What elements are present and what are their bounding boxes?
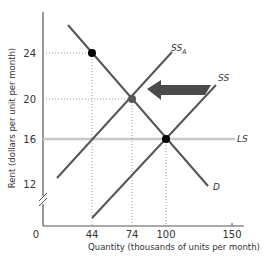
d-label: D bbox=[213, 182, 220, 192]
x-tick-0: 0 bbox=[33, 229, 39, 240]
x-tick-150: 150 bbox=[222, 229, 241, 240]
y-tick-16: 16 bbox=[23, 134, 36, 145]
ss-label: SS bbox=[218, 73, 229, 83]
equilibrium-dot-100-16 bbox=[162, 135, 170, 143]
y-tick-20: 20 bbox=[23, 94, 36, 105]
ls-label: LS bbox=[237, 134, 248, 144]
y-tick-24: 24 bbox=[23, 48, 36, 59]
equilibrium-dot-74-20 bbox=[128, 95, 136, 103]
x-axis-label: Quantity (thousands of units per month) bbox=[88, 242, 260, 252]
ss-curve bbox=[92, 85, 216, 218]
ssa-curve bbox=[57, 52, 172, 178]
x-tick-44: 44 bbox=[86, 229, 99, 240]
x-tick-100: 100 bbox=[156, 229, 175, 240]
demand-curve bbox=[68, 25, 208, 186]
shift-arrow-icon bbox=[147, 80, 211, 100]
ssa-label: SSA bbox=[171, 43, 187, 56]
y-axis-label: Rent (dollars per unit per month) bbox=[7, 48, 17, 188]
equilibrium-dot-44-24 bbox=[88, 49, 96, 57]
y-tick-12: 12 bbox=[23, 179, 36, 190]
x-tick-74: 74 bbox=[126, 229, 139, 240]
rent-ceiling-chart: 24 20 16 12 0 44 74 100 150 Quantity (th… bbox=[0, 0, 271, 259]
